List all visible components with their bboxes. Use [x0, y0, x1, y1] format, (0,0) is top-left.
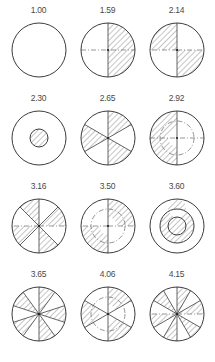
figure-label: 2.30: [31, 94, 46, 103]
figure-grid: 1.001.592.142.302.652.923.163.503.603.65…: [0, 0, 215, 362]
circle-diagram: [144, 281, 210, 347]
hatched-sector: [39, 226, 58, 253]
figure-cell: 1.00: [4, 6, 73, 94]
figure-label: 3.65: [31, 270, 46, 279]
outer-circle-outline: [12, 23, 66, 77]
hatched-sector: [19, 199, 38, 226]
circle-diagram: [144, 193, 210, 259]
centre-point: [37, 224, 39, 226]
circle-diagram: [144, 105, 210, 171]
circle-diagram: [75, 105, 141, 171]
figure-label: 2.14: [169, 6, 184, 15]
figure-cell: 3.16: [4, 182, 73, 270]
circle-diagram: [75, 193, 141, 259]
figure-cell: 4.15: [142, 270, 211, 358]
hatched-sector: [13, 292, 39, 314]
figure-label: 3.60: [169, 182, 184, 191]
centre-point: [175, 136, 177, 138]
figure-cell: 2.14: [142, 6, 211, 94]
figure-cell: 4.06: [73, 270, 142, 358]
figure-label: 2.65: [100, 94, 115, 103]
figure-label: 2.92: [169, 94, 184, 103]
figure-cell: 3.65: [4, 270, 73, 358]
circle-diagram: [6, 17, 72, 83]
figure-label: 3.50: [100, 182, 115, 191]
figure-cell: 3.60: [142, 182, 211, 270]
centre-point: [106, 312, 108, 314]
hatched-sector: [108, 318, 131, 341]
hatched-sector: [39, 206, 66, 225]
hatched-ring: [159, 199, 193, 243]
centre-point: [106, 224, 108, 226]
figure-label: 1.59: [100, 6, 115, 15]
hatched-sector: [13, 314, 39, 336]
hatched-sector: [108, 138, 131, 165]
figure-cell: 1.59: [73, 6, 142, 94]
hatched-sector: [80, 300, 99, 327]
circle-diagram: [144, 17, 210, 83]
centre-point: [175, 48, 177, 50]
hatched-sector: [108, 111, 131, 138]
figure-label: 4.15: [169, 270, 184, 279]
hatched-sector: [80, 124, 107, 151]
figure-cell: 2.65: [73, 94, 142, 182]
circle-diagram: [6, 281, 72, 347]
centre-point: [106, 136, 108, 138]
figure-cell: 3.50: [73, 182, 142, 270]
figure-label: 1.00: [31, 6, 46, 15]
hatched-sector: [12, 226, 39, 245]
figure-label: 3.16: [31, 182, 46, 191]
circle-diagram: [6, 105, 72, 171]
centre-point: [106, 48, 108, 50]
hatched-sector: [108, 287, 131, 310]
centre-point: [37, 312, 39, 314]
figure-cell: 2.30: [4, 94, 73, 182]
figure-cell: 2.92: [142, 94, 211, 182]
centre-point: [175, 312, 177, 314]
circle-diagram: [6, 193, 72, 259]
figure-label: 4.06: [100, 270, 115, 279]
circle-diagram: [75, 281, 141, 347]
circle-diagram: [75, 17, 141, 83]
